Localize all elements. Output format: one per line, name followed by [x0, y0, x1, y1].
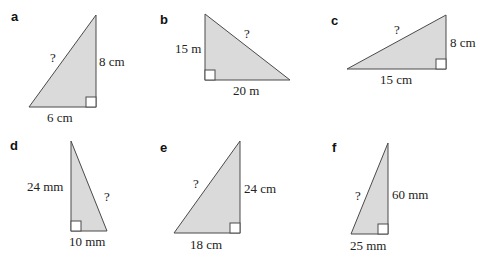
hypotenuse-label-e: ? [193, 176, 199, 191]
triangle-diagram: a ? 8 cm 6 cm b 15 m ? 20 m c ? 8 cm 15 … [0, 0, 481, 256]
problem-label-a: a [11, 9, 19, 24]
leg-label-f-horizontal: 25 mm [350, 238, 386, 253]
triangle-d [71, 141, 107, 231]
hypotenuse-label-a: ? [50, 50, 56, 65]
hypotenuse-label-f: ? [355, 188, 361, 203]
problem-label-e: e [160, 140, 167, 155]
hypotenuse-label-c: ? [394, 22, 400, 37]
right-angle-marker-b [205, 70, 215, 80]
triangle-a-group: a ? 8 cm 6 cm [11, 9, 125, 125]
leg-label-b-horizontal: 20 m [233, 83, 259, 98]
triangle-b-group: b 15 m ? 20 m [160, 12, 290, 98]
leg-label-e-vertical: 24 cm [244, 181, 276, 196]
hypotenuse-label-d: ? [104, 189, 110, 204]
triangle-e [174, 141, 240, 233]
leg-label-a-horizontal: 6 cm [47, 110, 73, 125]
triangle-c-group: c ? 8 cm 15 cm [331, 13, 476, 87]
leg-label-f-vertical: 60 mm [392, 187, 428, 202]
right-angle-marker-f [378, 224, 388, 234]
leg-label-d-horizontal: 10 mm [69, 234, 105, 249]
hypotenuse-label-b: ? [244, 26, 250, 41]
triangle-e-group: e ? 24 cm 18 cm [160, 140, 276, 252]
leg-label-c-vertical: 8 cm [450, 35, 476, 50]
right-angle-marker-e [230, 223, 240, 233]
right-angle-marker-c [436, 59, 446, 69]
right-angle-marker-a [86, 97, 96, 107]
leg-label-a-vertical: 8 cm [99, 54, 125, 69]
triangle-f-group: f ? 60 mm 25 mm [332, 140, 428, 253]
triangle-d-group: d 24 mm ? 10 mm [10, 138, 110, 249]
problem-label-f: f [332, 140, 337, 155]
triangle-b [205, 14, 290, 80]
leg-label-e-horizontal: 18 cm [190, 237, 222, 252]
leg-label-b-vertical: 15 m [175, 41, 201, 56]
triangle-a [29, 15, 96, 107]
problem-label-d: d [10, 138, 18, 153]
problem-label-b: b [160, 12, 168, 27]
leg-label-c-horizontal: 15 cm [380, 72, 412, 87]
problem-label-c: c [331, 13, 338, 28]
leg-label-d-vertical: 24 mm [27, 179, 63, 194]
right-angle-marker-d [71, 221, 81, 231]
